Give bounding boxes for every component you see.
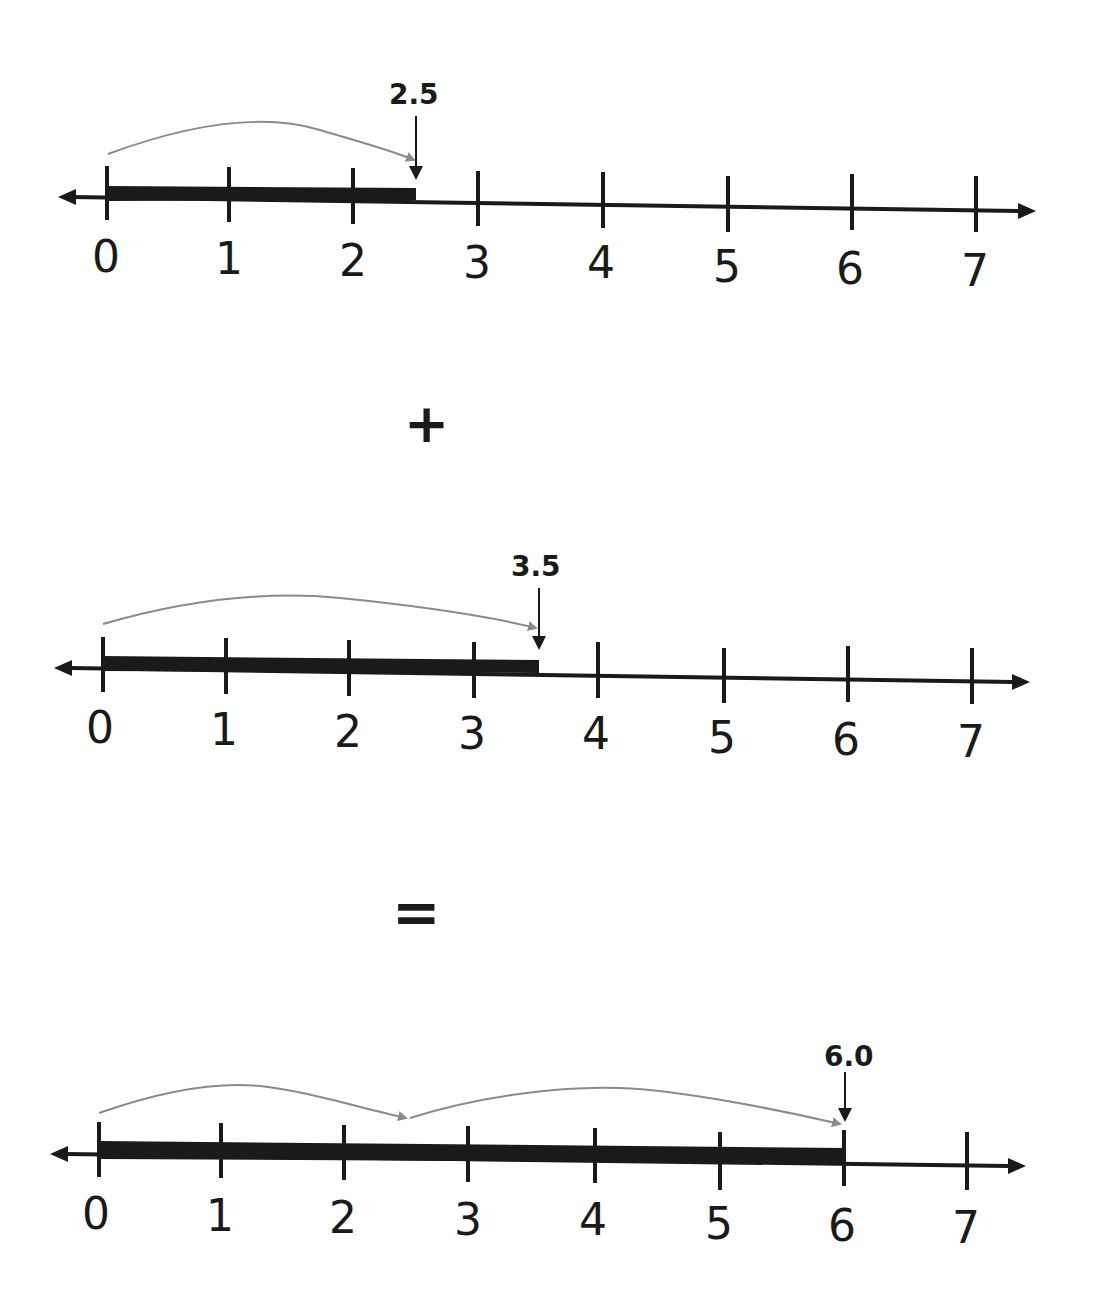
marker-label: 2.5: [389, 78, 439, 111]
tick-label: 3: [463, 237, 491, 288]
left-arrowhead-icon: [58, 189, 76, 205]
tick-label: 2: [329, 1192, 357, 1243]
tick-label: 0: [86, 702, 114, 753]
plus-operator: +: [404, 392, 449, 455]
jump-arrow-icon: [99, 1085, 406, 1118]
tick-label: 6: [832, 714, 860, 765]
value-bar: [107, 186, 416, 201]
value-bar: [99, 1141, 845, 1163]
tick-label: 6: [828, 1200, 856, 1251]
jump-arrow-icon: [410, 1088, 840, 1124]
marker-label: 6.0: [824, 1040, 874, 1073]
tick-label: 1: [206, 1190, 234, 1241]
tick-label: 6: [836, 243, 864, 294]
number-line-diagram: 0 1 2 3 4 5 6 7 2.5 +: [0, 0, 1098, 1293]
number-line-first-addend: 0 1 2 3 4 5 6 7 2.5: [58, 78, 1036, 296]
left-arrowhead-icon: [54, 660, 72, 676]
tick-label: 3: [454, 1194, 482, 1245]
tick-label: 3: [458, 708, 486, 759]
jump-arrow-icon: [108, 122, 414, 160]
marker-arrowhead-icon: [838, 1108, 852, 1122]
tick-labels: 0 1 2 3 4 5 6 7: [86, 702, 985, 767]
tick-label: 4: [587, 237, 615, 288]
tick-label: 5: [708, 712, 736, 763]
tick-label: 7: [961, 245, 989, 296]
tick-labels: 0 1 2 3 4 5 6 7: [82, 1188, 980, 1253]
tick-label: 7: [952, 1202, 980, 1253]
marker-arrowhead-icon: [409, 166, 423, 180]
jump-arrow-icon: [103, 596, 536, 628]
tick-label: 4: [582, 708, 610, 759]
tick-label: 2: [334, 706, 362, 757]
tick-label: 1: [215, 233, 243, 284]
tick-labels: 0 1 2 3 4 5 6 7: [92, 231, 989, 296]
left-arrowhead-icon: [50, 1146, 68, 1162]
tick-label: 7: [957, 716, 985, 767]
number-line-second-addend: 0 1 2 3 4 5 6 7 3.5: [54, 550, 1030, 767]
tick-label: 2: [339, 235, 367, 286]
right-arrowhead-icon: [1012, 674, 1030, 690]
number-line-sum: 0 1 2 3 4 5 6 7 6.0: [50, 1040, 1026, 1253]
right-arrowhead-icon: [1008, 1158, 1026, 1174]
marker-label: 3.5: [511, 550, 561, 583]
tick-label: 5: [705, 1198, 733, 1249]
tick-label: 0: [92, 231, 120, 282]
tick-label: 1: [210, 704, 238, 755]
tick-label: 5: [713, 241, 741, 292]
right-arrowhead-icon: [1018, 203, 1036, 219]
tick-label: 4: [579, 1194, 607, 1245]
marker-arrowhead-icon: [532, 636, 546, 650]
tick-label: 0: [82, 1188, 110, 1239]
equals-operator: =: [392, 878, 441, 946]
